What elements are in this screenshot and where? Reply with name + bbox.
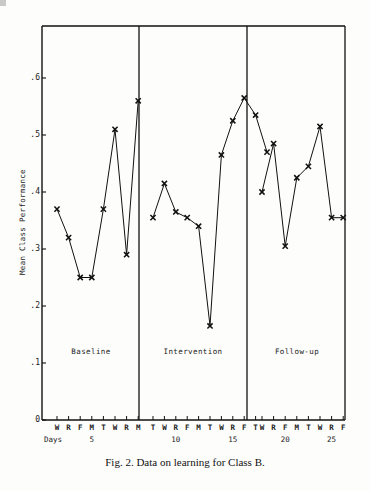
x-tick-letter-intervention-5: T: [205, 423, 215, 432]
x-tick-letter-intervention-1: W: [159, 423, 169, 432]
data-point-intervention-1: [162, 181, 167, 186]
x-tick-letter-baseline-1: R: [64, 423, 74, 432]
x-tick-letter-intervention-2: R: [171, 423, 181, 432]
data-series-group: [54, 95, 345, 328]
data-point-intervention-10: [264, 150, 269, 155]
chart-plot-area: [0, 0, 370, 491]
x-tick-letter-intervention-0: T: [148, 423, 158, 432]
x-tick-letter-baseline-3: M: [87, 423, 97, 432]
x-tick-letter-intervention-6: W: [216, 423, 226, 432]
x-tick-letter-follow-up-4: T: [303, 423, 313, 432]
data-point-intervention-8: [242, 95, 247, 100]
x-tick-letter-follow-up-1: R: [269, 423, 279, 432]
x-tick-letter-baseline-5: W: [110, 423, 120, 432]
x-tick-letter-baseline-0: W: [52, 423, 62, 432]
x-tick-letter-follow-up-3: M: [292, 423, 302, 432]
x-tick-letter-follow-up-2: F: [280, 423, 290, 432]
series-line-intervention: [153, 98, 267, 326]
x-tick-letter-intervention-8: F: [239, 423, 249, 432]
data-point-intervention-0: [150, 215, 155, 220]
x-tick-letter-intervention-3: F: [182, 423, 192, 432]
series-line-baseline: [57, 101, 138, 278]
x-tick-letter-follow-up-6: R: [327, 423, 337, 432]
x-tick-letter-follow-up-5: W: [315, 423, 325, 432]
figure-container: Mean Class Performance 0 .1 .2 .3 .4 .5 …: [0, 0, 370, 491]
x-tick-letter-follow-up-7: F: [338, 423, 348, 432]
x-tick-letter-baseline-6: R: [122, 423, 132, 432]
x-tick-number-baseline-0: 5: [84, 435, 100, 444]
x-tick-letter-baseline-4: T: [98, 423, 108, 432]
x-tick-letter-intervention-7: R: [228, 423, 238, 432]
x-tick-number-intervention-0: 10: [168, 435, 184, 444]
x-tick-letter-intervention-4: M: [194, 423, 204, 432]
data-point-intervention-7: [230, 118, 235, 123]
data-point-intervention-2: [173, 209, 178, 214]
data-point-intervention-3: [185, 215, 190, 220]
data-point-intervention-9: [253, 112, 258, 117]
x-tick-letter-baseline-7: M: [133, 423, 143, 432]
data-point-baseline-1: [66, 235, 71, 240]
x-tick-letter-baseline-2: F: [75, 423, 85, 432]
x-tick-number-follow-up-0: 20: [277, 435, 293, 444]
x-tick-number-intervention-1: 15: [225, 435, 241, 444]
x-tick-number-follow-up-1: 25: [324, 435, 340, 444]
data-point-baseline-0: [54, 207, 59, 212]
x-tick-letter-follow-up-0: W: [257, 423, 267, 432]
